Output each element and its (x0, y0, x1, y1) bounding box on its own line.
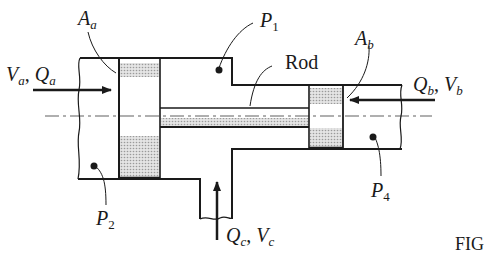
point-p2 (91, 163, 98, 170)
right-piston (309, 85, 343, 149)
rod (160, 108, 309, 127)
figure-caption-fragment: FIG (455, 234, 484, 254)
point-p4 (370, 134, 377, 141)
label-rod: Rod (285, 52, 318, 72)
left-piston (119, 58, 160, 179)
point-p1 (216, 67, 223, 74)
label-pressure-p1: P1 (260, 10, 279, 33)
label-inlet-b: Qb, Vb (413, 74, 463, 97)
cylinder-diagram (0, 0, 491, 254)
label-pressure-p2: P2 (96, 208, 115, 231)
label-inlet-c: Qc, Vc (226, 225, 274, 248)
label-area-a: Aa (78, 8, 97, 31)
label-pressure-p4: P4 (371, 180, 390, 203)
label-inlet-a: Va, Qa (6, 64, 56, 87)
label-area-b: Ab (355, 28, 374, 51)
